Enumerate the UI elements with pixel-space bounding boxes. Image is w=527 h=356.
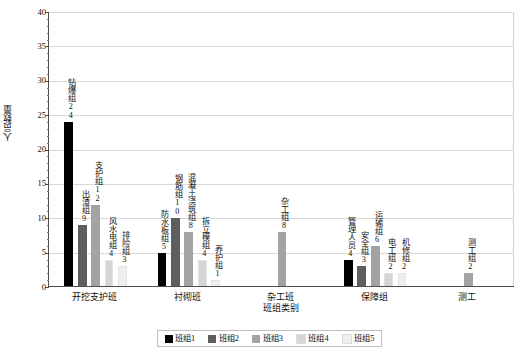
legend-label: 班组2 — [219, 334, 239, 343]
legend-item[interactable]: 班组5 — [342, 334, 375, 344]
y-tick-label: 20 — [24, 145, 46, 154]
bar-slot: 运输组6 — [371, 12, 380, 287]
bar-slot: 安全组3 — [357, 12, 366, 287]
bar-group: 杂工组8 — [235, 12, 328, 287]
bar[interactable] — [357, 266, 366, 287]
bar-data-label: 管理人员4 — [342, 217, 355, 258]
bar-data-label: 出渣组9 — [76, 190, 89, 223]
x-axis-category-label: 测工 — [421, 292, 514, 303]
bar-slot: 混凝土浇筑组8 — [184, 12, 193, 287]
bar-data-label: 钢筋组10 — [169, 174, 182, 216]
bar-group: 管理人员4安全组3运输组6电工组2机修组2 — [329, 12, 422, 287]
bar-slot: 支护组12 — [91, 12, 100, 287]
bar-data-label: 混凝土浇筑组8 — [182, 173, 195, 230]
bar-data-label: 养护组1 — [209, 245, 222, 278]
x-axis-category-label: 开挖支护班 — [48, 292, 141, 303]
legend-item[interactable]: 班组4 — [296, 334, 329, 344]
bar[interactable] — [158, 253, 167, 287]
bar-slot: 钢筋组10 — [171, 12, 180, 287]
y-tick-label: 0 — [24, 283, 46, 292]
bar-slot: 养护组1 — [211, 12, 220, 287]
legend-label: 班组5 — [354, 334, 374, 343]
bar-group: 防水板组5钢筋组10混凝土浇筑组8拆立模组4养护组1 — [142, 12, 235, 287]
bar-slot: 拆立模组4 — [198, 12, 207, 287]
bar[interactable] — [198, 260, 207, 288]
bar-data-label: 钻爆组24 — [62, 78, 75, 120]
y-tick-label: 5 — [24, 248, 46, 257]
x-axis-category-label: 保障组 — [328, 292, 421, 303]
bar[interactable] — [64, 122, 73, 287]
legend-item[interactable]: 班组3 — [252, 334, 283, 343]
bar-group: 钻爆组24出渣组9支护组12风水电组4排险组3 — [49, 12, 142, 287]
legend-swatch — [252, 335, 260, 343]
legend-label: 班组4 — [308, 334, 328, 343]
bar[interactable] — [78, 225, 87, 287]
legend-label: 班组1 — [175, 334, 195, 343]
y-tick-label: 10 — [24, 214, 46, 223]
legend-swatch — [296, 334, 306, 344]
y-tick-label: 15 — [24, 179, 46, 188]
bar-data-label: 电工组2 — [382, 238, 395, 271]
y-axis-title: 人员数量 — [2, 105, 16, 141]
bar-data-label: 排险组3 — [116, 231, 129, 264]
legend-item[interactable]: 班组1 — [165, 334, 196, 343]
bar-slot: 机修组2 — [398, 12, 407, 287]
legend-item[interactable]: 班组2 — [208, 334, 239, 343]
bar-slot: 电工组2 — [384, 12, 393, 287]
y-axis-tick — [45, 287, 49, 288]
bar-slot: 管理人员4 — [344, 12, 353, 287]
bar-slot: 测工组2 — [464, 12, 473, 287]
bar-slot: 钻爆组24 — [64, 12, 73, 287]
bar[interactable] — [91, 205, 100, 288]
bar[interactable] — [118, 266, 127, 287]
bar-data-label: 运输组6 — [369, 211, 382, 244]
bar-group: 测工组2 — [422, 12, 515, 287]
y-axis-tick-labels: 0510152025303540 — [20, 0, 46, 356]
legend-label: 班组3 — [263, 334, 283, 343]
bar-data-label: 支护组12 — [89, 161, 102, 203]
legend-swatch — [165, 335, 173, 343]
legend-swatch — [208, 335, 216, 343]
y-tick-label: 40 — [24, 8, 46, 17]
bar[interactable] — [105, 260, 114, 288]
y-tick-label: 35 — [24, 42, 46, 51]
y-tick-label: 30 — [24, 76, 46, 85]
bar[interactable] — [371, 246, 380, 287]
bar-data-label: 测工组2 — [462, 238, 475, 271]
x-axis-baseline — [49, 286, 514, 287]
bar-data-label: 机修组2 — [396, 238, 409, 271]
bar-data-label: 拆立模组4 — [196, 217, 209, 258]
bar-slot: 出渣组9 — [78, 12, 87, 287]
bar[interactable] — [344, 260, 353, 288]
bar-slot: 防水板组5 — [158, 12, 167, 287]
bar-data-label: 安全组3 — [355, 231, 368, 264]
bar[interactable] — [278, 232, 287, 287]
bar-data-label: 防水板组5 — [155, 210, 168, 251]
bar-slot: 杂工组8 — [278, 12, 287, 287]
bar[interactable] — [184, 232, 193, 287]
x-axis-category-label: 衬砌班 — [141, 292, 234, 303]
y-tick-label: 25 — [24, 111, 46, 120]
bar-data-label: 杂工组8 — [275, 197, 288, 230]
legend-swatch — [342, 334, 352, 344]
bar-slot: 风水电组4 — [105, 12, 114, 287]
bar[interactable] — [171, 218, 180, 287]
chart-legend[interactable]: 班组1班组2班组3班组4班组5 — [157, 330, 382, 347]
bar-chart: 人员数量 0510152025303540 钻爆组24出渣组9支护组12风水电组… — [0, 0, 527, 356]
plot-area: 钻爆组24出渣组9支护组12风水电组4排险组3防水板组5钢筋组10混凝土浇筑组8… — [48, 12, 514, 287]
bar-slot: 排险组3 — [118, 12, 127, 287]
x-axis-category-label: 杂工班 — [234, 292, 327, 303]
x-axis-title: 班组类别 — [234, 303, 327, 314]
bar-data-label: 风水电组4 — [103, 217, 116, 258]
